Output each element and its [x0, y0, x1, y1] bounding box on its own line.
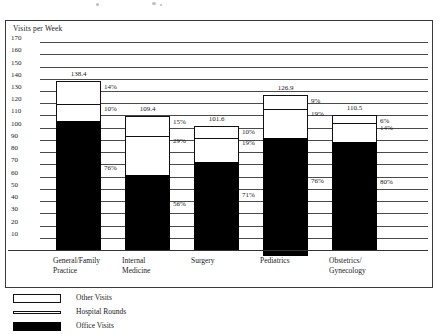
y-axis-tick-label: 120	[11, 95, 37, 103]
scan-artifact	[96, 3, 99, 6]
legend-item-office-visits: Office Visits	[8, 320, 238, 334]
pct-label-hospital-rounds: 29%	[173, 137, 186, 145]
pct-label-office-visits: 76%	[104, 164, 117, 172]
plot-area: 1701601501401301201101009080706050403020…	[40, 36, 428, 250]
y-axis-tick-label: 70	[11, 156, 37, 164]
y-axis-tick-label: 60	[11, 169, 37, 177]
pct-label-other-visits: 9%	[311, 97, 320, 105]
y-axis-tick-label: 150	[11, 59, 37, 67]
segment-office-visits	[56, 121, 101, 250]
segment-other-visits	[56, 81, 101, 105]
gridline	[40, 67, 428, 68]
segment-other-visits	[125, 116, 170, 136]
y-axis-tick-label: 170	[11, 34, 37, 42]
bar-pediatrics[interactable]	[263, 95, 308, 250]
pct-label-other-visits: 14%	[104, 83, 117, 91]
segment-office-visits	[125, 175, 170, 250]
category-label-line: Medicine	[122, 266, 206, 276]
bar-total-label: 101.6	[185, 115, 249, 123]
segment-hospital-rounds	[194, 138, 239, 162]
pct-label-hospital-rounds: 19%	[242, 139, 255, 147]
segment-other-visits	[263, 95, 308, 109]
segment-hospital-rounds	[263, 109, 308, 138]
category-label-line: Obstetrics/	[329, 256, 413, 266]
legend-item-hospital-rounds: Hospital Rounds	[8, 306, 238, 320]
segment-other-visits	[332, 115, 377, 123]
y-axis-tick-label: 30	[11, 205, 37, 213]
legend-label: Other Visits	[76, 293, 112, 302]
thin-bar-swatch-icon	[13, 311, 61, 314]
chart-legend: Other Visits Hospital Rounds Office Visi…	[8, 292, 238, 334]
bar-general-family-practice[interactable]	[56, 81, 101, 250]
bar-total-label: 138.4	[47, 70, 111, 78]
scan-artifact	[152, 2, 156, 5]
gridline	[40, 54, 428, 55]
open-square-swatch-icon	[13, 294, 61, 303]
y-axis-tick-label: 160	[11, 46, 37, 54]
bar-internal-medicine[interactable]	[125, 116, 170, 250]
legend-label: Hospital Rounds	[76, 307, 126, 316]
y-axis-tick-label: 20	[11, 218, 37, 226]
category-label: Obstetrics/Gynecology	[329, 256, 413, 275]
segment-hospital-rounds	[332, 123, 377, 142]
chart-screenshot: Visits per Week 170160150140130120110100…	[0, 0, 440, 334]
y-axis-tick-label: 110	[11, 107, 37, 115]
x-axis-baseline	[8, 250, 428, 251]
bar-surgery[interactable]	[194, 126, 239, 250]
y-axis-tick-label: 140	[11, 71, 37, 79]
segment-hospital-rounds	[56, 104, 101, 121]
segment-other-visits	[194, 126, 239, 138]
y-axis-tick-label: 130	[11, 83, 37, 91]
y-axis-title: Visits per Week	[13, 24, 62, 33]
pct-label-office-visits: 56%	[173, 200, 186, 208]
y-axis-tick-label: 90	[11, 132, 37, 140]
pct-label-hospital-rounds: 14%	[380, 124, 393, 132]
legend-label: Office Visits	[76, 321, 114, 330]
y-axis-tick-label: 10	[11, 230, 37, 238]
pct-label-office-visits: 76%	[311, 177, 324, 185]
scan-artifact	[160, 4, 162, 6]
y-axis-tick-label: 100	[11, 120, 37, 128]
segment-office-visits	[332, 142, 377, 250]
segment-office-visits	[263, 138, 308, 256]
legend-item-other-visits: Other Visits	[8, 292, 238, 306]
pct-label-office-visits: 80%	[380, 178, 393, 186]
category-label-line: Gynecology	[329, 266, 413, 276]
y-axis-tick-label: 80	[11, 144, 37, 152]
segment-hospital-rounds	[125, 136, 170, 175]
y-axis-tick-label: 50	[11, 181, 37, 189]
bar-total-label: 109.4	[116, 105, 180, 113]
y-axis-tick-label: 40	[11, 193, 37, 201]
bar-obstetrics-gynecology[interactable]	[332, 115, 377, 250]
filled-square-swatch-icon	[13, 322, 61, 331]
gridline	[40, 42, 428, 43]
pct-label-other-visits: 10%	[242, 128, 255, 136]
gridline	[40, 79, 428, 80]
bar-total-label: 110.5	[323, 104, 387, 112]
pct-label-office-visits: 71%	[242, 191, 255, 199]
bar-total-label: 126.9	[254, 84, 318, 92]
segment-office-visits	[194, 162, 239, 250]
